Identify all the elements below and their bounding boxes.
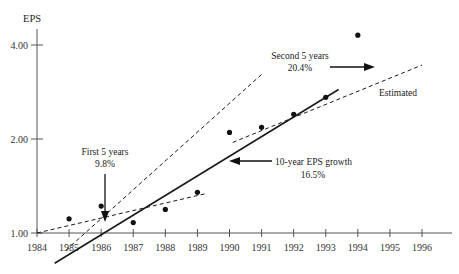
trend-line-10-year-eps-growth	[55, 90, 339, 264]
data-point	[323, 95, 328, 100]
data-point	[355, 33, 360, 38]
x-tick-label: 1991	[252, 242, 272, 253]
x-tick-label: 1990	[220, 242, 240, 253]
annotation-second-five-years-line2: 20.4%	[288, 63, 313, 73]
data-point	[131, 220, 136, 225]
data-point	[291, 112, 296, 117]
chart-canvas: EPS 1.002.004.00 19841985198619871988198…	[0, 0, 459, 274]
data-point	[227, 130, 232, 135]
annotation-second-five-years-line1: Second 5 years	[271, 51, 329, 61]
x-tick-label: 1985	[59, 242, 79, 253]
x-tick-label: 1988	[155, 242, 175, 253]
y-tick-label: 2.00	[11, 134, 29, 145]
data-point	[163, 207, 168, 212]
y-tick-label: 1.00	[11, 228, 29, 239]
trend-line-first-5-years	[37, 193, 207, 233]
annotation-ten-year-growth-line2: 16.5%	[301, 170, 326, 180]
x-tick-label: 1986	[91, 242, 111, 253]
annotation-estimated-label: Estimated	[379, 88, 417, 98]
data-point	[99, 203, 104, 208]
x-tick-label: 1995	[380, 242, 400, 253]
annotation-first-five-years-line2: 9.8%	[95, 159, 115, 169]
y-axis-title: EPS	[23, 13, 41, 24]
x-tick-label: 1992	[284, 242, 304, 253]
x-tick-label: 1993	[316, 242, 336, 253]
data-point	[259, 125, 264, 130]
y-axis-ticks: 1.002.004.00	[11, 40, 44, 239]
trend-line-estimated	[233, 65, 422, 142]
annotation-ten-year-growth: 10-year EPS growth 16.5%	[229, 157, 352, 180]
x-tick-label: 1994	[348, 242, 368, 253]
data-point	[195, 190, 200, 195]
data-point	[66, 216, 71, 221]
x-tick-label: 1984	[27, 242, 47, 253]
eps-growth-chart: EPS 1.002.004.00 19841985198619871988198…	[0, 0, 459, 274]
data-points	[66, 33, 360, 226]
x-tick-label: 1989	[187, 242, 207, 253]
annotation-ten-year-growth-arrow-head	[229, 157, 240, 165]
annotation-first-five-years-line1: First 5 years	[82, 147, 129, 157]
y-tick-label: 4.00	[11, 40, 29, 51]
annotation-second-five-years: Second 5 years 20.4%	[271, 51, 375, 73]
x-tick-label: 1987	[123, 242, 143, 253]
annotation-estimated: Estimated	[379, 88, 417, 98]
annotation-ten-year-growth-line1: 10-year EPS growth	[275, 157, 352, 167]
annotation-first-five-years: First 5 years 9.8%	[82, 147, 129, 222]
x-tick-label: 1996	[412, 242, 432, 253]
annotation-second-five-years-arrow-head	[364, 63, 375, 71]
